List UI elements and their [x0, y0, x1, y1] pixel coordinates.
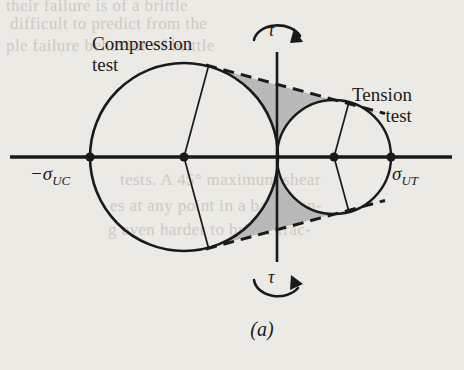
compression-test-label-line1: Compression	[92, 33, 192, 54]
tau-arrow-top	[254, 25, 303, 43]
tension-test-label-line2: test	[352, 105, 412, 126]
figure-caption: (a)	[222, 318, 302, 340]
compression-test-label-line2: test	[92, 54, 192, 75]
compression-test-label: Compression test	[92, 33, 192, 76]
tension-test-label: Tension test	[352, 84, 412, 127]
figure-canvas: their failure is of a brittle difficult …	[0, 0, 464, 370]
compression-radius-upper	[184, 66, 209, 157]
point-sigma-ut	[386, 152, 395, 161]
point-tension-center	[329, 152, 338, 161]
sigma-ut-symbol: σ	[392, 163, 401, 184]
tension-test-label-line1: Tension	[352, 84, 412, 105]
tau-top-label: τ	[268, 20, 274, 40]
tension-radius-upper	[334, 102, 349, 157]
point-compression-center	[179, 152, 188, 161]
tau-bottom-label: τ	[268, 267, 274, 287]
point-minus-sigma-uc	[85, 152, 94, 161]
sigma-uc-subscript: UC	[52, 173, 70, 188]
sigma-ut-label: σUT	[392, 163, 418, 188]
sigma-uc-label: −σUC	[30, 163, 70, 188]
sigma-uc-symbol: −σ	[30, 163, 52, 184]
tau-arrow-bottom	[254, 275, 303, 296]
sigma-ut-subscript: UT	[401, 173, 418, 188]
compression-radius-lower	[184, 157, 209, 248]
tension-radius-lower	[334, 157, 349, 212]
